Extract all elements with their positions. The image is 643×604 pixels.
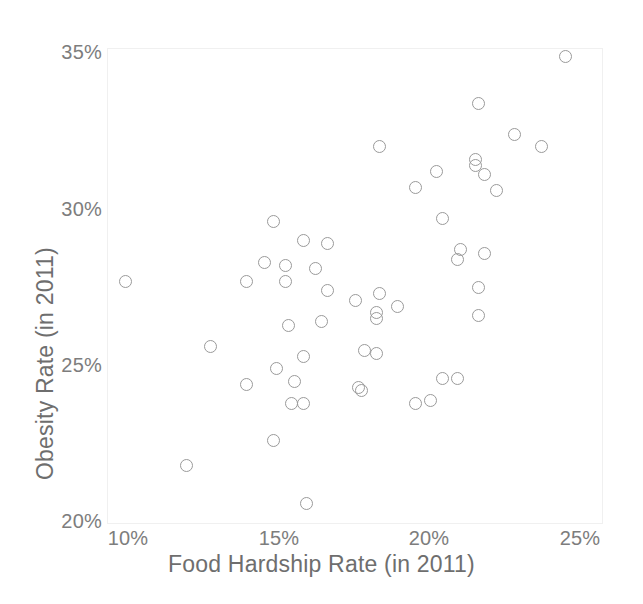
data-point — [535, 140, 548, 153]
data-point — [315, 315, 328, 328]
data-point — [321, 284, 334, 297]
x-tick-label-25: 25% — [560, 527, 601, 550]
x-tick-label-15: 15% — [259, 527, 300, 550]
data-point — [297, 350, 310, 363]
data-point — [559, 50, 572, 63]
data-point — [391, 300, 404, 313]
data-point — [321, 237, 334, 250]
data-point — [297, 397, 310, 410]
data-point — [370, 347, 383, 360]
data-point — [300, 497, 313, 510]
data-point — [478, 168, 491, 181]
data-point — [119, 275, 132, 288]
plot-area — [107, 48, 603, 524]
y-tick-label-35: 35% — [36, 41, 102, 64]
data-point — [240, 275, 253, 288]
data-point — [270, 362, 283, 375]
x-tick-label-20: 20% — [409, 527, 450, 550]
data-point — [373, 140, 386, 153]
data-point — [358, 344, 371, 357]
y-tick-label-30: 30% — [36, 198, 102, 221]
data-point — [370, 312, 383, 325]
data-point — [451, 372, 464, 385]
data-point — [472, 281, 485, 294]
scatter-plot-figure: 35% 30% 25% 20% 10% 15% 20% 25% Food Har… — [0, 0, 643, 604]
data-point — [436, 212, 449, 225]
data-point — [267, 215, 280, 228]
data-point — [267, 434, 280, 447]
x-axis-title: Food Hardship Rate (in 2011) — [0, 551, 643, 578]
data-point — [240, 378, 253, 391]
data-point — [478, 247, 491, 260]
data-point — [490, 184, 503, 197]
y-axis-title: Obesity Rate (in 2011) — [32, 247, 59, 480]
data-point — [508, 128, 521, 141]
data-point — [285, 397, 298, 410]
data-point — [436, 372, 449, 385]
data-point — [349, 294, 362, 307]
data-point — [204, 340, 217, 353]
data-point — [282, 319, 295, 332]
y-tick-label-20: 20% — [36, 510, 102, 533]
data-point — [297, 234, 310, 247]
data-point — [409, 397, 422, 410]
x-tick-label-10: 10% — [108, 527, 149, 550]
data-point — [279, 275, 292, 288]
data-point — [373, 287, 386, 300]
data-point — [355, 384, 368, 397]
data-point — [288, 375, 301, 388]
data-point — [430, 165, 443, 178]
data-point — [180, 459, 193, 472]
data-point — [409, 181, 422, 194]
data-point — [451, 253, 464, 266]
data-point — [424, 394, 437, 407]
data-point — [472, 97, 485, 110]
data-point — [309, 262, 322, 275]
data-point — [279, 259, 292, 272]
data-point — [258, 256, 271, 269]
data-point — [472, 309, 485, 322]
